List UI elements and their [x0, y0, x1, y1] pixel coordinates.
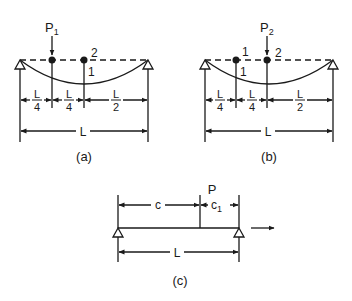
- total-length-label: L: [80, 125, 87, 139]
- svg-text:4: 4: [66, 101, 72, 113]
- load-label: P1: [45, 20, 59, 37]
- point-2-label: 2: [91, 46, 98, 60]
- svg-text:2: 2: [113, 101, 119, 113]
- point-1-deflection-label: 1: [240, 65, 247, 79]
- point-1-label: 1: [88, 65, 95, 79]
- panel-c: P c c1 L (c): [113, 182, 274, 288]
- caption-c: (c): [172, 273, 187, 288]
- svg-text:2: 2: [297, 101, 303, 113]
- beam-influence-diagram: P1 2 1 L 4 L 4 L 2 L (a) P2: [0, 0, 352, 301]
- svg-text:4: 4: [217, 101, 223, 113]
- svg-text:L: L: [297, 88, 303, 100]
- left-support-icon: [200, 60, 210, 69]
- load-label: P2: [260, 20, 274, 37]
- dim-c-label: c: [155, 198, 161, 212]
- point-2-label: 2: [275, 46, 282, 60]
- left-support-icon: [113, 228, 123, 237]
- right-support-icon: [234, 228, 244, 237]
- deflected-shape: [205, 60, 333, 84]
- panel-b: P2 1 2 1 L 4 L 4 L 2 L (b): [200, 20, 338, 164]
- right-support-icon: [328, 60, 338, 69]
- total-length-label: L: [265, 125, 272, 139]
- svg-text:L: L: [217, 88, 223, 100]
- svg-text:4: 4: [34, 101, 40, 113]
- caption-a: (a): [76, 149, 92, 164]
- caption-b: (b): [261, 149, 277, 164]
- panel-a: P1 2 1 L 4 L 4 L 2 L (a): [15, 20, 153, 164]
- total-length-label: L: [174, 246, 181, 260]
- svg-text:L: L: [249, 88, 255, 100]
- right-support-icon: [143, 60, 153, 69]
- left-support-icon: [15, 60, 25, 69]
- svg-text:L: L: [113, 88, 119, 100]
- load-label: P: [208, 182, 217, 197]
- svg-text:L: L: [66, 88, 72, 100]
- point-1-label: 1: [242, 45, 249, 59]
- svg-text:L: L: [34, 88, 40, 100]
- svg-text:4: 4: [249, 101, 255, 113]
